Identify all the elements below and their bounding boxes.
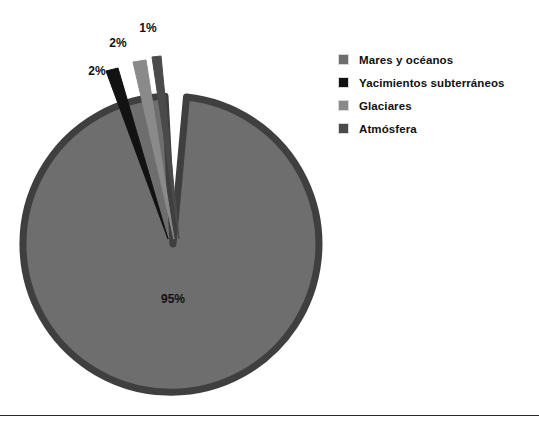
legend-swatch-glaciares — [338, 100, 349, 111]
legend-label-atmosfera: Atmósfera — [359, 123, 417, 135]
chart-legend: Mares y océanos Yacimientos subterráneos… — [338, 50, 533, 142]
slice-value-label-atmosfera: 1% — [139, 21, 157, 35]
pie-chart-figure: 95% 2% 2% 1% Mares y océanos Yacimientos… — [0, 0, 539, 421]
legend-item-glaciares[interactable]: Glaciares — [338, 96, 533, 115]
legend-swatch-atmosfera — [338, 123, 349, 134]
pie-slice-mares-y-oceanos[interactable] — [23, 96, 319, 392]
legend-swatch-yacimientos-subterraneos — [338, 77, 349, 88]
slice-value-label-glaciares: 2% — [109, 36, 127, 50]
legend-label-mares-y-oceanos: Mares y océanos — [359, 54, 453, 66]
slice-value-label-yacimientos-subterraneos: 2% — [88, 64, 106, 78]
legend-label-yacimientos-subterraneos: Yacimientos subterráneos — [359, 77, 505, 89]
legend-item-mares-y-oceanos[interactable]: Mares y océanos — [338, 50, 533, 69]
legend-swatch-mares-y-oceanos — [338, 54, 349, 65]
legend-item-atmosfera[interactable]: Atmósfera — [338, 119, 533, 138]
legend-item-yacimientos-subterraneos[interactable]: Yacimientos subterráneos — [338, 73, 533, 92]
legend-label-glaciares: Glaciares — [359, 100, 412, 112]
footer-divider — [0, 415, 539, 416]
slice-value-label-mares-y-oceanos: 95% — [161, 292, 185, 306]
